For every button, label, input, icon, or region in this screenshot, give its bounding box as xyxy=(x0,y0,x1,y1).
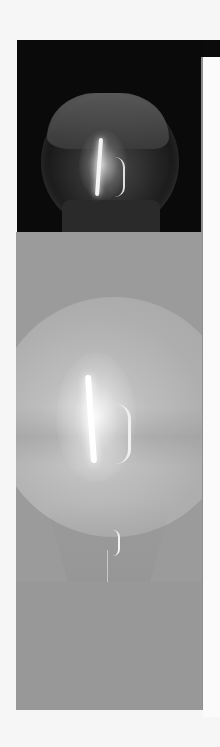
small-bulb-base xyxy=(62,200,160,232)
right-margin xyxy=(203,57,220,717)
lower-gray-fill xyxy=(16,582,202,710)
gray-main-photo xyxy=(16,232,202,710)
support-wire-straight xyxy=(107,550,108,582)
dark-inset-photo xyxy=(17,40,202,232)
small-filament-arc xyxy=(115,157,125,197)
large-filament-arc xyxy=(116,404,131,464)
support-wire-curved xyxy=(113,530,120,556)
